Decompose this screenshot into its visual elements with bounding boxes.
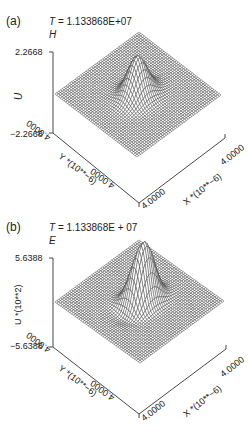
z-max-label: 5.6388 — [15, 254, 43, 263]
time-symbol: T — [49, 222, 55, 233]
time-label: T = 1.133868E+07 — [49, 17, 132, 27]
panel-label: (b) — [6, 221, 21, 233]
z-max-label: 2.2668 — [15, 48, 43, 57]
time-value: = 1.133868E+07 — [58, 16, 132, 27]
z-axis-label: U *(10**2) — [14, 284, 23, 325]
time-label: T = 1.133868E + 07 — [49, 223, 137, 233]
z-axis-label: U — [14, 93, 24, 100]
time-symbol: T — [49, 16, 55, 27]
variable-label: H — [49, 30, 56, 40]
variable-label: E — [49, 236, 56, 246]
panel-a: (a) T = 1.133868E+07 H 2.2668 U −2.2668 … — [0, 0, 249, 215]
panel-label: (a) — [6, 15, 21, 27]
time-value: = 1.133868E + 07 — [58, 222, 138, 233]
panel-b: (b) T = 1.133868E + 07 E 5.6388 U *(10**… — [0, 215, 249, 431]
